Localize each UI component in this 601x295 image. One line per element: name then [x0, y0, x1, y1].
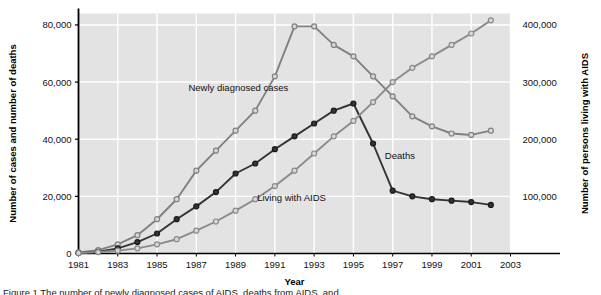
data-point: [390, 80, 395, 85]
y-axis-right-title: Number of persons living with AIDS: [579, 53, 590, 214]
data-point: [194, 204, 199, 209]
x-tick-label: 2003: [500, 259, 521, 270]
data-point: [371, 100, 376, 105]
data-point: [135, 240, 140, 245]
data-point: [96, 250, 101, 255]
data-point: [312, 24, 317, 29]
data-point: [233, 128, 238, 133]
data-point: [429, 197, 434, 202]
data-point: [155, 217, 160, 222]
data-point: [272, 184, 277, 189]
x-tick-label: 1995: [343, 259, 364, 270]
data-point: [488, 18, 493, 23]
data-point: [253, 161, 258, 166]
y-right-tick-label: 200,000: [523, 134, 557, 145]
data-point: [272, 74, 277, 79]
x-tick-label: 1983: [107, 259, 128, 270]
y-left-tick-label: 0: [66, 248, 71, 259]
data-point: [331, 42, 336, 47]
data-point: [155, 231, 160, 236]
data-point: [76, 250, 81, 255]
data-point: [174, 217, 179, 222]
data-point: [390, 188, 395, 193]
data-point: [410, 65, 415, 70]
data-point: [312, 151, 317, 156]
data-point: [292, 24, 297, 29]
x-tick-label: 1981: [68, 259, 89, 270]
data-point: [449, 42, 454, 47]
x-tick-label: 1989: [225, 259, 246, 270]
series-label: Deaths: [385, 150, 415, 161]
data-point: [135, 246, 140, 251]
data-point: [351, 118, 356, 123]
y-left-tick-label: 60,000: [42, 77, 71, 88]
data-point: [292, 168, 297, 173]
data-point: [194, 168, 199, 173]
y-left-tick-label: 40,000: [42, 134, 71, 145]
y-right-tick-label: 400,000: [523, 19, 557, 30]
x-tick-label: 2001: [461, 259, 482, 270]
data-point: [371, 141, 376, 146]
data-point: [410, 194, 415, 199]
y-right-tick-label: 300,000: [523, 77, 557, 88]
data-point: [469, 132, 474, 137]
data-point: [429, 54, 434, 59]
y-left-tick-label: 80,000: [42, 19, 71, 30]
y-right-tick-label: 100,000: [523, 191, 557, 202]
data-point: [469, 200, 474, 205]
data-point: [351, 54, 356, 59]
data-point: [410, 114, 415, 119]
y-left-tick-label: 20,000: [42, 191, 71, 202]
data-point: [488, 128, 493, 133]
data-point: [390, 94, 395, 99]
data-point: [488, 202, 493, 207]
data-point: [351, 101, 356, 106]
x-tick-label: 1997: [382, 259, 403, 270]
data-point: [115, 248, 120, 253]
data-point: [213, 219, 218, 224]
figure-caption: Figure 1 The number of newly diagnosed c…: [3, 287, 473, 295]
data-point: [449, 198, 454, 203]
aids-trends-line-chart: 1981198319851987198919911993199519971999…: [0, 0, 601, 295]
data-point: [253, 108, 258, 113]
x-tick-label: 1993: [304, 259, 325, 270]
x-tick-label: 1999: [421, 259, 442, 270]
x-tick-label: 1987: [186, 259, 207, 270]
series-label: Newly diagnosed cases: [188, 82, 288, 93]
data-point: [331, 108, 336, 113]
data-point: [213, 148, 218, 153]
data-point: [194, 228, 199, 233]
data-point: [233, 171, 238, 176]
data-point: [371, 74, 376, 79]
data-point: [233, 208, 238, 213]
data-point: [469, 31, 474, 36]
data-point: [331, 134, 336, 139]
data-point: [272, 147, 277, 152]
data-point: [155, 242, 160, 247]
data-point: [174, 197, 179, 202]
x-tick-label: 1985: [146, 259, 167, 270]
data-point: [174, 237, 179, 242]
y-axis-left-title: Number of cases and number of deaths: [7, 44, 18, 222]
data-point: [429, 124, 434, 129]
data-point: [213, 190, 218, 195]
x-axis-title: Year: [284, 276, 304, 287]
data-point: [135, 233, 140, 238]
figure-container: 1981198319851987198919911993199519971999…: [0, 0, 601, 295]
x-tick-label: 1991: [264, 259, 285, 270]
data-point: [449, 131, 454, 136]
data-point: [312, 121, 317, 126]
series-label: Living with AIDS: [257, 192, 326, 203]
data-point: [292, 134, 297, 139]
